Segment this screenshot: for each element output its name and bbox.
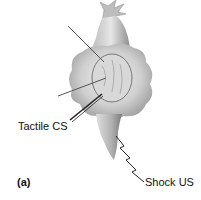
aplysia-illustration (0, 0, 201, 200)
shock-us-label: Shock US (145, 176, 194, 188)
tactile-cs-label: Tactile CS (18, 120, 68, 132)
panel-label: (a) (17, 176, 30, 188)
